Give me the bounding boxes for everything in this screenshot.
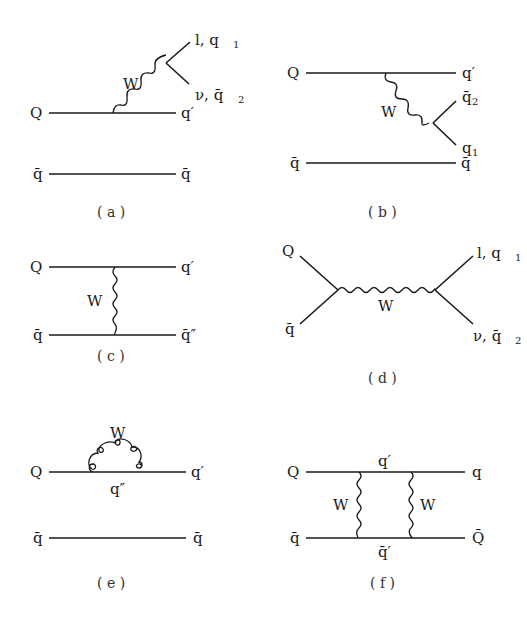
outgoing-neutrino-line [435, 290, 473, 324]
label-qbar-right: q̄ [181, 165, 191, 183]
label-bottom-out: ν, q̄ [195, 86, 224, 104]
outgoing-lepton-line [435, 256, 473, 290]
label-qbar-left: q̄ [290, 529, 300, 547]
label-qbar-left: q̄ [33, 326, 43, 344]
w-boson-exchange-left [357, 472, 361, 538]
panel-d: Q q̄ W l, q 1 ν, q̄ 2 ( d ) [282, 242, 521, 386]
label-top-out: l, q [477, 244, 501, 262]
panel-b: Q q′ q̄ q̄ W q̄ 2 q 1 ( b ) [287, 64, 478, 220]
label-q-prime: q′ [191, 463, 205, 481]
label-W: W [110, 424, 126, 442]
label-W: W [381, 103, 397, 121]
w-boson-exchange-right [409, 472, 413, 538]
label-q-double-prime: q″ [110, 480, 126, 498]
panel-c: Q q′ q̄ q̄″ W ( c ) [30, 258, 197, 364]
label-bottom-out: ν, q̄ [473, 327, 502, 345]
label-qbar-left: q̄ [290, 154, 300, 172]
label-top-out: l, q [195, 31, 219, 49]
outgoing-neutrino-line [166, 63, 189, 84]
incoming-antiquark-line [300, 290, 338, 324]
label-Q: Q [30, 104, 42, 122]
label-Q: Q [287, 463, 299, 481]
panel-f: Q q q′ q̄ Q̄ q̄′ W W ( f ) [287, 452, 484, 591]
label-q-prime: q′ [181, 104, 195, 122]
label-bottom-out: q [462, 139, 472, 157]
label-qbar-prime-bottom: q̄′ [378, 543, 392, 561]
label-Qbar-right: Q̄ [472, 529, 484, 547]
caption-b: ( b ) [368, 204, 397, 220]
label-q: q [472, 463, 482, 481]
label-q-prime: q′ [181, 258, 195, 276]
label-bottom-sub: 2 [238, 94, 244, 105]
label-qbar-left: q̄ [33, 529, 43, 547]
feynman-diagrams-figure: Q q′ q̄ q̄ W l, q 1 ν, q̄ 2 ( a ) Q q′ q… [0, 0, 527, 622]
label-bottom-sub: 2 [515, 335, 521, 346]
caption-d: ( d ) [368, 370, 397, 386]
label-W: W [123, 75, 139, 93]
label-top-sub: 1 [515, 252, 521, 263]
label-Q: Q [287, 64, 299, 82]
caption-c: ( c ) [97, 348, 125, 364]
label-top-out: q̄ [462, 88, 472, 106]
label-q-prime: q′ [462, 64, 476, 82]
label-Q: Q [282, 242, 294, 260]
label-qbar-right: q̄ [193, 529, 203, 547]
label-top-sub: 1 [233, 39, 239, 50]
label-top-sub: 2 [472, 96, 478, 107]
label-W-left: W [333, 496, 349, 514]
outgoing-lepton-line [166, 42, 190, 63]
w-boson-propagator [113, 55, 166, 113]
label-qbar-left: q̄ [33, 165, 43, 183]
label-Q: Q [30, 463, 42, 481]
w-boson-propagator [338, 288, 435, 293]
label-Q: Q [30, 258, 42, 276]
panel-e: Q q′ q″ W q̄ q̄ ( e ) [30, 424, 205, 591]
caption-a: ( a ) [97, 204, 125, 220]
incoming-quark-line [300, 256, 338, 290]
label-q-prime-top: q′ [378, 452, 392, 470]
outgoing-quark-line [433, 123, 456, 145]
label-qbar-double-prime: q̄″ [181, 326, 197, 344]
label-W: W [378, 297, 394, 315]
panel-a: Q q′ q̄ q̄ W l, q 1 ν, q̄ 2 ( a ) [30, 31, 244, 220]
w-boson-loop [89, 439, 142, 472]
w-boson-exchange [113, 267, 117, 335]
caption-f: ( f ) [370, 575, 395, 591]
label-bottom-sub: 1 [472, 147, 478, 158]
label-qbar: q̄ [285, 320, 295, 338]
label-W-right: W [420, 496, 436, 514]
caption-e: ( e ) [97, 575, 125, 591]
outgoing-antiquark-line [433, 101, 456, 123]
label-W: W [87, 292, 103, 310]
